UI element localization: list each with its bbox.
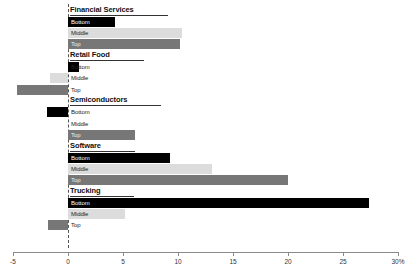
bar-label-middle: Middle: [69, 73, 88, 83]
bar-label-top: Top: [69, 39, 81, 49]
bar-row: Bottom: [0, 62, 409, 72]
bar-top[interactable]: [68, 175, 288, 185]
x-axis-tick: [13, 252, 14, 256]
bar-row: Bottom: [0, 153, 409, 163]
x-axis-line: [14, 252, 398, 253]
x-axis-tick-label: 5: [121, 258, 125, 265]
x-axis-tick-label: 20: [284, 258, 291, 265]
bar-middle[interactable]: [50, 73, 68, 83]
group-label: Trucking: [70, 186, 134, 197]
bar-row: Middle: [0, 209, 409, 219]
bar-label-top: Top: [69, 85, 81, 95]
bar-label-bottom: Bottom: [69, 198, 90, 208]
bar-row: Top: [0, 85, 409, 95]
group-label: Retail Food: [70, 50, 144, 61]
bar-row: Bottom: [0, 198, 409, 208]
group-label: Financial Services: [70, 5, 168, 16]
x-axis-tick: [288, 252, 289, 256]
bar-label-middle: Middle: [69, 164, 88, 174]
bar-label-middle: Middle: [69, 119, 88, 129]
group-label: Semiconductors: [70, 95, 161, 106]
bar-top[interactable]: [48, 220, 68, 230]
bar-label-bottom: Bottom: [69, 62, 90, 72]
x-axis-tick-label: -5: [10, 258, 16, 265]
bar-chart: Financial ServicesBottomMiddleTopRetail …: [0, 0, 409, 276]
bar-label-middle: Middle: [69, 28, 88, 38]
x-axis-tick: [123, 252, 124, 256]
bar-row: Middle: [0, 119, 409, 129]
bar-row: Middle: [0, 164, 409, 174]
bar-label-middle: Middle: [69, 209, 88, 219]
bar-row: Bottom: [0, 107, 409, 117]
bar-row: Middle: [0, 73, 409, 83]
x-axis-tick-label: 15: [229, 258, 236, 265]
bar-row: Top: [0, 220, 409, 230]
bar-row: Top: [0, 39, 409, 49]
bar-row: Top: [0, 175, 409, 185]
bar-label-top: Top: [69, 175, 81, 185]
x-axis-tick-label: 30%: [391, 258, 404, 265]
bar-group: Retail FoodBottomMiddleTop: [0, 50, 409, 96]
bar-group: Financial ServicesBottomMiddleTop: [0, 5, 409, 51]
bar-group: SoftwareBottomMiddleTop: [0, 141, 409, 187]
bar-group: TruckingBottomMiddleTop: [0, 186, 409, 232]
x-axis-tick-label: 10: [174, 258, 181, 265]
x-axis-tick: [343, 252, 344, 256]
bar-row: Top: [0, 130, 409, 140]
bar-row: Bottom: [0, 17, 409, 27]
x-axis-tick: [398, 252, 399, 256]
bar-bottom[interactable]: [68, 198, 369, 208]
bar-middle[interactable]: [68, 164, 212, 174]
bar-bottom[interactable]: [47, 107, 68, 117]
bar-label-bottom: Bottom: [69, 153, 90, 163]
x-axis-tick: [233, 252, 234, 256]
group-label: Software: [70, 141, 135, 152]
x-axis-tick-label: 0: [66, 258, 70, 265]
bar-label-bottom: Bottom: [69, 107, 90, 117]
bar-label-top: Top: [69, 130, 81, 140]
bar-label-top: Top: [69, 220, 81, 230]
bar-top[interactable]: [68, 39, 180, 49]
bar-row: Middle: [0, 28, 409, 38]
x-axis-tick: [68, 252, 69, 256]
x-axis-tick-label: 25: [339, 258, 346, 265]
bar-label-bottom: Bottom: [69, 17, 90, 27]
bar-top[interactable]: [17, 85, 68, 95]
plot-area: Financial ServicesBottomMiddleTopRetail …: [0, 0, 409, 244]
bar-group: SemiconductorsBottomMiddleTop: [0, 95, 409, 141]
x-axis-tick: [178, 252, 179, 256]
